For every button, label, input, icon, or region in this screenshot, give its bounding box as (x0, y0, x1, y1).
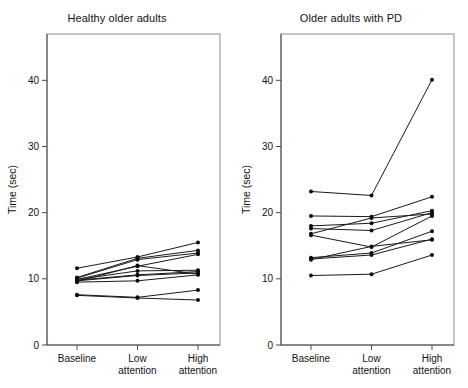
plot-area-right: 010203040Time (sec)BaselineLowattentionH… (234, 0, 468, 388)
data-point-left-S3-1 (136, 258, 140, 262)
data-point-right-P10-0 (309, 274, 313, 278)
y-tick-label-right-0: 0 (267, 340, 273, 351)
panel-older-adults-with-pd: Older adults with PD 010203040Time (sec)… (234, 0, 468, 388)
data-point-left-S5-1 (136, 269, 140, 273)
y-tick-label-left-10: 10 (28, 273, 40, 284)
data-point-left-S10-2 (196, 288, 200, 292)
data-point-left-S11-0 (75, 293, 79, 297)
data-point-left-S11-1 (136, 296, 140, 300)
data-point-right-P1-2 (430, 78, 434, 82)
data-point-left-S9-1 (136, 279, 140, 283)
data-point-left-S9-2 (196, 273, 200, 277)
data-point-right-P5-1 (370, 216, 374, 220)
data-point-right-P8-1 (370, 253, 374, 257)
series-line-right-P1 (311, 80, 432, 196)
y-tick-label-left-0: 0 (33, 340, 39, 351)
data-point-left-S1-0 (75, 266, 79, 270)
data-point-right-P3-1 (370, 221, 374, 225)
x-tick-label-right-2: High (422, 353, 443, 364)
x-tick-label-left-1: Low (128, 353, 147, 364)
plot-frame-left (47, 34, 220, 345)
data-point-left-S8-1 (136, 264, 140, 268)
y-tick-label-right-10: 10 (262, 273, 274, 284)
data-point-left-S1-2 (196, 240, 200, 244)
x-tick-label-right-2-line2: attention (413, 365, 451, 376)
data-point-right-P10-2 (430, 253, 434, 257)
x-tick-label-left-0: Baseline (58, 353, 97, 364)
data-point-right-P10-1 (370, 272, 374, 276)
y-tick-label-left-20: 20 (28, 207, 40, 218)
data-point-right-P1-0 (309, 189, 313, 193)
y-tick-label-right-20: 20 (262, 207, 274, 218)
x-tick-label-right-1-line2: attention (352, 365, 390, 376)
plot-area-left: 010203040Time (sec)BaselineLowattentionH… (0, 0, 234, 388)
data-point-right-P4-0 (309, 227, 313, 231)
y-axis-title-left: Time (sec) (6, 165, 18, 214)
x-tick-label-left-2-line2: attention (179, 365, 217, 376)
data-point-right-P9-0 (309, 258, 313, 262)
x-tick-label-right-1: Low (362, 353, 381, 364)
data-point-right-P9-1 (370, 244, 374, 248)
y-tick-label-right-30: 30 (262, 141, 274, 152)
data-point-left-S4-2 (196, 252, 200, 256)
y-tick-label-left-40: 40 (28, 75, 40, 86)
x-tick-label-left-2: High (188, 353, 209, 364)
data-point-right-P6-2 (430, 214, 434, 218)
data-point-right-P9-2 (430, 238, 434, 242)
data-point-right-P2-0 (309, 214, 313, 218)
data-point-left-S7-1 (136, 274, 140, 278)
series-line-right-P2 (311, 197, 432, 217)
data-point-left-S11-2 (196, 298, 200, 302)
data-point-right-P7-2 (430, 229, 434, 233)
y-axis-title-right: Time (sec) (240, 165, 252, 214)
plot-frame-right (281, 34, 454, 345)
data-point-left-S9-0 (75, 280, 79, 284)
y-tick-label-left-30: 30 (28, 141, 40, 152)
panel-healthy-older-adults: Healthy older adults 010203040Time (sec)… (0, 0, 234, 388)
figure-root: Healthy older adults 010203040Time (sec)… (0, 0, 468, 388)
data-point-right-P6-0 (309, 233, 313, 237)
data-point-right-P4-1 (370, 229, 374, 233)
x-tick-label-right-0: Baseline (292, 353, 331, 364)
data-point-right-P1-1 (370, 193, 374, 197)
data-point-right-P2-2 (430, 195, 434, 199)
y-tick-label-right-40: 40 (262, 75, 274, 86)
x-tick-label-left-1-line2: attention (118, 365, 156, 376)
